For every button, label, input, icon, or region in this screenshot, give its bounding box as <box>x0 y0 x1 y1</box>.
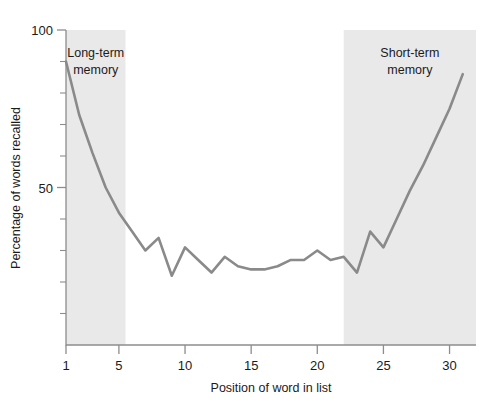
x-tick-label: 30 <box>442 358 456 373</box>
y-tick-label: 100 <box>31 23 53 38</box>
y-tick-label: 50 <box>39 181 53 196</box>
x-axis-title: Position of word in list <box>211 381 332 395</box>
y-axis-title: Percentage of words recalled <box>9 107 23 269</box>
x-tick-label: 15 <box>244 358 258 373</box>
chart-canvas: 50100151015202530 Long-termmemoryShort-t… <box>0 0 491 402</box>
x-tick-label: 1 <box>62 358 69 373</box>
band-label-short-term-line2: memory <box>387 63 433 77</box>
x-tick-label: 10 <box>178 358 192 373</box>
serial-position-chart: 50100151015202530 Long-termmemoryShort-t… <box>0 0 491 402</box>
band-region-short-term <box>344 30 476 345</box>
band-region-long-term <box>66 30 126 345</box>
x-tick-label: 25 <box>376 358 390 373</box>
band-group <box>66 30 476 345</box>
band-label-short-term: Short-term <box>380 46 439 60</box>
x-tick-label: 5 <box>115 358 122 373</box>
x-tick-label: 20 <box>310 358 324 373</box>
band-label-long-term: Long-term <box>67 46 124 60</box>
band-label-long-term-line2: memory <box>73 63 119 77</box>
